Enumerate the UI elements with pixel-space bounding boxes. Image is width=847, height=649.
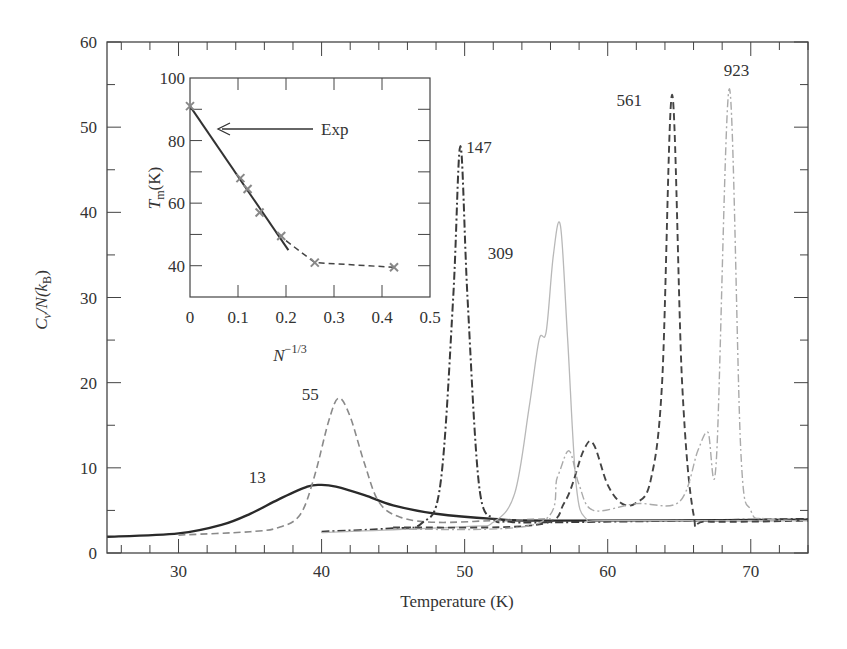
y-tick-label: 40 <box>80 203 97 222</box>
curve-label-13: 13 <box>249 468 266 487</box>
curve-55 <box>179 398 551 535</box>
x-axis-title: Temperature (K) <box>400 592 514 611</box>
inset-x-tick-label: 0 <box>186 308 195 327</box>
x-tick-label: 40 <box>313 562 330 581</box>
curve-561 <box>393 95 808 528</box>
curve-label-561: 561 <box>616 91 642 110</box>
curve-label-923: 923 <box>724 61 750 80</box>
y-axis-title: Cv/N(kB) <box>32 270 54 330</box>
y-tick-label: 60 <box>80 33 97 52</box>
inset-x-tick-label: 0.1 <box>227 308 248 327</box>
x-tick-label: 60 <box>599 562 616 581</box>
inset-x-tick-label: 0.4 <box>371 308 393 327</box>
exp-label: Exp <box>321 120 348 139</box>
inset-x-axis-title: N−1/3 <box>272 342 306 365</box>
curve-label-309: 309 <box>488 244 514 263</box>
inset-chart: 00.10.20.30.40.5406080100Exp <box>160 69 441 327</box>
y-tick-label: 10 <box>80 459 97 478</box>
y-tick-label: 0 <box>89 544 98 563</box>
curve-label-147: 147 <box>466 138 492 157</box>
main-axes: 30405060700102030405060 <box>80 33 808 581</box>
inset-x-tick-label: 0.2 <box>275 308 296 327</box>
inset-y-tick-label: 60 <box>168 194 185 213</box>
heat-capacity-chart: 1355147309561923 30405060700102030405060… <box>0 0 847 649</box>
inset-x-tick-label: 0.3 <box>323 308 344 327</box>
x-tick-label: 30 <box>170 562 187 581</box>
inset-y-tick-label: 40 <box>168 257 185 276</box>
x-tick-label: 50 <box>456 562 473 581</box>
inset-y-axis-title: Tm(K) <box>145 167 167 209</box>
inset-x-tick-label: 0.5 <box>419 308 440 327</box>
inset-y-tick-label: 80 <box>168 132 185 151</box>
inset-y-tick-label: 100 <box>160 69 186 88</box>
x-tick-label: 70 <box>742 562 759 581</box>
y-tick-label: 30 <box>80 289 97 308</box>
y-tick-label: 20 <box>80 374 97 393</box>
y-tick-label: 50 <box>80 118 97 137</box>
curve-label-55: 55 <box>302 385 319 404</box>
